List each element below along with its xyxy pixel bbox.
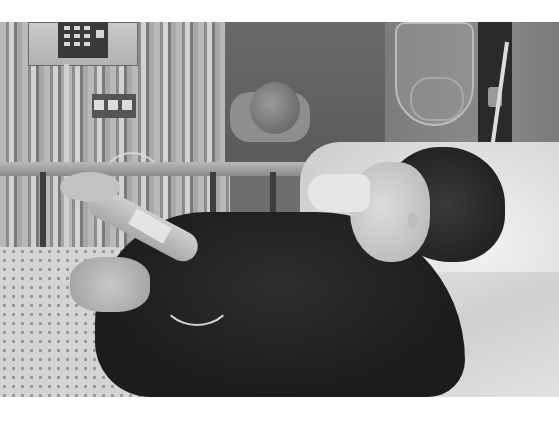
patient-ear [408,212,418,228]
lower-hand [70,257,150,312]
hospital-photo [0,22,559,397]
oxygen-mask [308,174,370,212]
pump-clamp-labels [94,100,132,110]
iv-tube [100,152,164,216]
iv-tube [160,262,234,326]
rail-post [40,172,46,257]
background-patient [250,82,300,134]
iv-pump-keypad [58,22,108,58]
iv-tubing-loop [410,77,464,121]
